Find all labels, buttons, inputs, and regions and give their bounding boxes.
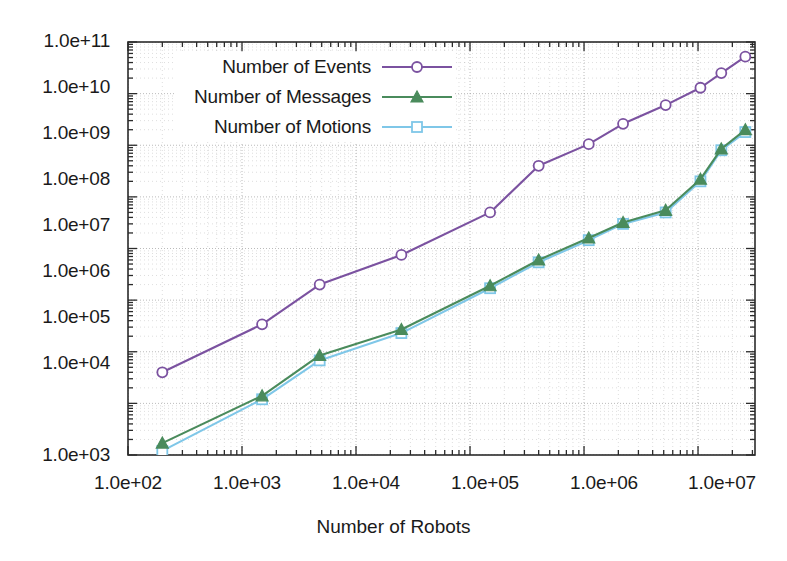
legend-label: Number of Motions xyxy=(214,116,371,138)
chart-figure: 1.0e+11 1.0e+10 1.0e+09 1.0e+08 1.0e+07 … xyxy=(0,0,787,561)
legend-label: Number of Messages xyxy=(194,86,371,108)
legend-item-messages: Number of Messages xyxy=(176,82,454,112)
legend-swatch-messages xyxy=(380,87,454,107)
legend-item-events: Number of Events xyxy=(176,52,454,82)
chart-legend: Number of Events Number of Messages Numb… xyxy=(176,52,454,142)
x-axis-title: Number of Robots xyxy=(0,516,787,538)
legend-swatch-events xyxy=(380,57,454,77)
legend-label: Number of Events xyxy=(222,56,371,78)
legend-swatch-motions xyxy=(380,117,454,137)
legend-item-motions: Number of Motions xyxy=(176,112,454,142)
